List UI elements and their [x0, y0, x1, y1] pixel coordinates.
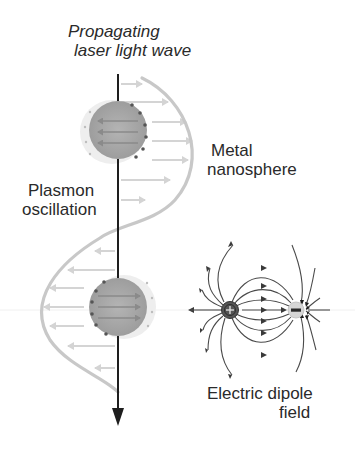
arrow-down-icon [112, 408, 124, 426]
metal-nanosphere-lower [89, 275, 156, 339]
diagram-canvas [0, 0, 355, 454]
electric-dipole-field [188, 241, 330, 379]
positive-charge [222, 302, 239, 319]
metal-nanosphere-upper [80, 100, 148, 164]
negative-charge [288, 302, 304, 318]
